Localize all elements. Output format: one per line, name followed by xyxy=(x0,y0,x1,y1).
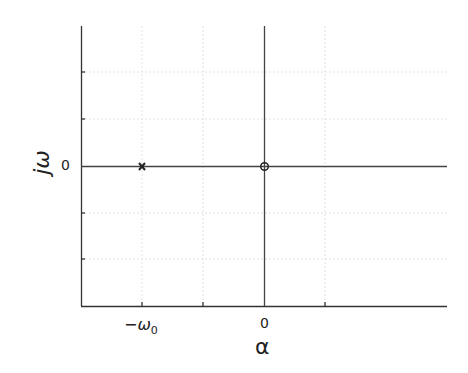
xtick-sub: 0 xyxy=(151,324,158,337)
x-axis-label: α xyxy=(255,334,270,359)
ytick-zero: 0 xyxy=(61,157,70,173)
xtick-neg-omega-text: −ω xyxy=(124,315,151,334)
pole-zero-plot xyxy=(0,0,468,373)
xtick-zero: 0 xyxy=(260,315,269,331)
zero-lines xyxy=(81,26,447,306)
y-axis-label: jω xyxy=(29,146,54,180)
xtick-neg-omega0: −ω0 xyxy=(124,315,158,337)
